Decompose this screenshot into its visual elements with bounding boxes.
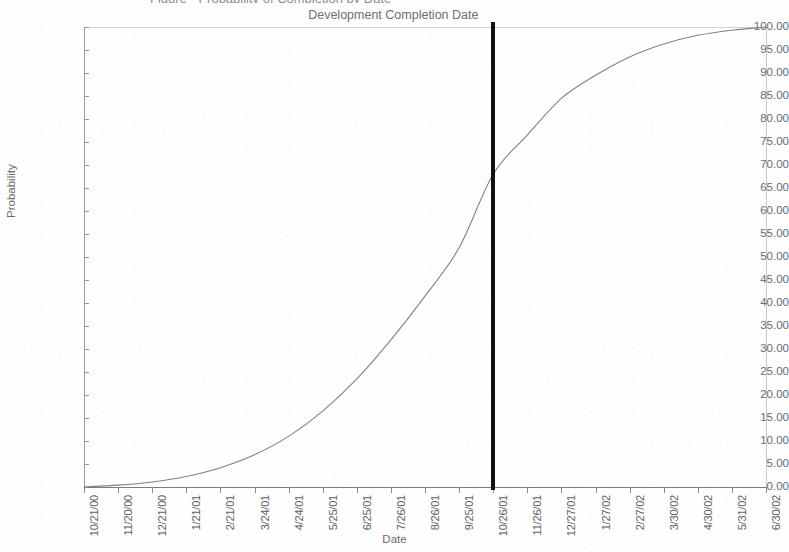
development-completion-marker-line (491, 22, 495, 490)
probability-curve (0, 0, 789, 552)
chart-page: Figure - Probability of Completion by Da… (0, 0, 789, 552)
development-completion-marker-label: Development Completion Date (308, 8, 478, 22)
